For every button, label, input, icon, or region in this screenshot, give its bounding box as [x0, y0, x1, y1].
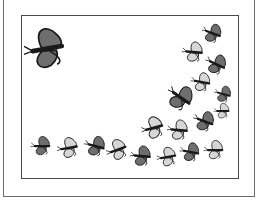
butterfly-icon: [178, 141, 200, 162]
butterfly-icon: [155, 146, 177, 167]
butterfly-icon: [190, 108, 216, 133]
butterfly-icon: [20, 27, 65, 71]
butterfly-swarm: [0, 0, 258, 202]
butterfly-icon: [199, 20, 223, 44]
butterfly-icon: [162, 79, 197, 113]
butterfly-icon: [139, 115, 165, 141]
butterfly-icon: [103, 137, 129, 162]
butterfly-icon: [212, 84, 232, 104]
butterfly-icon: [82, 133, 106, 157]
butterfly-icon: [214, 103, 229, 118]
butterfly-icon: [55, 136, 78, 159]
butterfly-icon: [129, 145, 151, 166]
butterfly-icon: [166, 119, 188, 140]
butterfly-icon: [202, 50, 228, 76]
butterfly-icon: [181, 41, 203, 62]
butterfly-icon: [31, 136, 50, 154]
butterfly-layer: [20, 20, 232, 167]
butterfly-icon: [204, 140, 223, 158]
butterfly-icon: [189, 71, 211, 92]
